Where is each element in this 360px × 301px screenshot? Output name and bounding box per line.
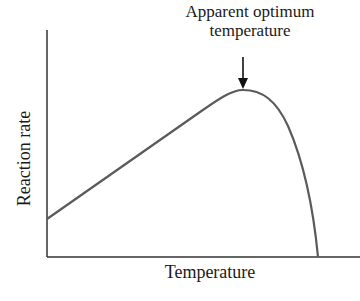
annotation-line1: Apparent optimum [150, 2, 350, 21]
optimum-annotation: Apparent optimum temperature [150, 2, 350, 40]
rate-curve [47, 90, 318, 257]
y-axis-label: Reaction rate [14, 89, 35, 229]
x-axis-label: Temperature [100, 262, 320, 283]
chart-canvas [0, 0, 360, 301]
arrow-head-icon [238, 78, 248, 89]
annotation-line2: temperature [150, 21, 350, 40]
